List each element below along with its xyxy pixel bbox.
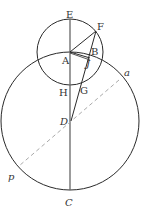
label-J: J xyxy=(84,58,91,69)
label-C: C xyxy=(65,197,73,208)
label-G: G xyxy=(80,85,88,96)
label-a: a xyxy=(124,67,130,78)
label-A: A xyxy=(61,55,70,66)
geometry-diagram: E F B A J H G D a p C xyxy=(0,0,144,213)
label-E: E xyxy=(66,9,73,20)
label-H: H xyxy=(59,87,68,98)
label-D: D xyxy=(59,116,68,127)
label-F: F xyxy=(97,21,104,32)
label-B: B xyxy=(91,46,98,57)
dashed-line-ap xyxy=(19,80,119,166)
label-p: p xyxy=(8,171,15,182)
